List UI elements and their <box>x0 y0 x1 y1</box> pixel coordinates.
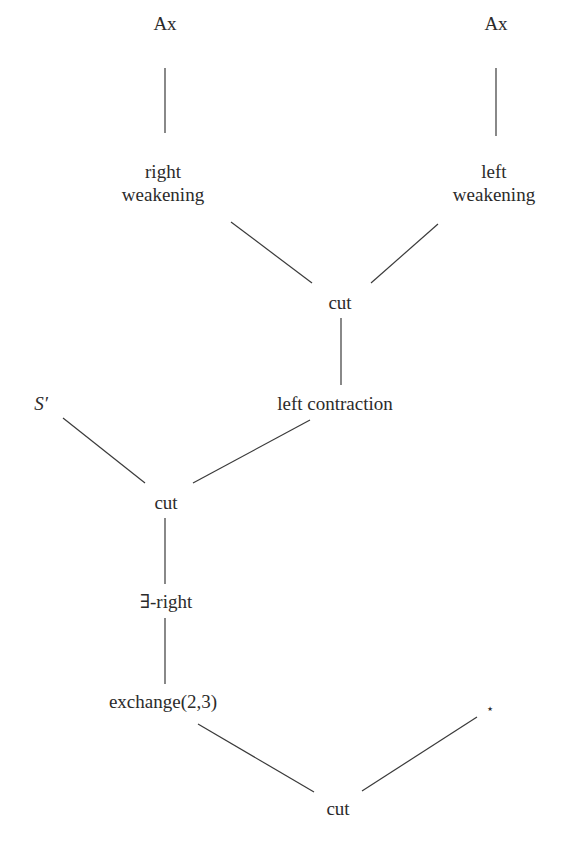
edge-star-cut3 <box>362 717 477 791</box>
edge-exch-cut3 <box>198 724 314 792</box>
star-node: ⋆ <box>486 697 494 720</box>
left-weakening-line1: left <box>453 160 535 183</box>
axiom-node-left: Ax <box>153 12 176 35</box>
cut-node-3: cut <box>326 797 349 820</box>
edge-lc-cut2 <box>193 420 310 483</box>
right-weakening-line1: right <box>122 160 204 183</box>
edge-rw-cut1 <box>231 222 312 283</box>
s-prime-node: S′ <box>34 392 48 415</box>
proof-tree-edges <box>0 0 569 853</box>
right-weakening-node: right weakening <box>122 160 204 206</box>
cut-node-2: cut <box>154 491 177 514</box>
left-contraction-node: left contraction <box>277 392 393 415</box>
axiom-node-right: Ax <box>484 12 507 35</box>
exchange-node: exchange(2,3) <box>109 690 217 713</box>
cut-node-1: cut <box>328 291 351 314</box>
edge-lw-cut1 <box>371 224 438 283</box>
left-weakening-line2: weakening <box>453 183 535 206</box>
left-weakening-node: left weakening <box>453 160 535 206</box>
exists-right-node: ∃-right <box>140 590 193 613</box>
edge-sprime-cut2 <box>63 418 145 483</box>
right-weakening-line2: weakening <box>122 183 204 206</box>
